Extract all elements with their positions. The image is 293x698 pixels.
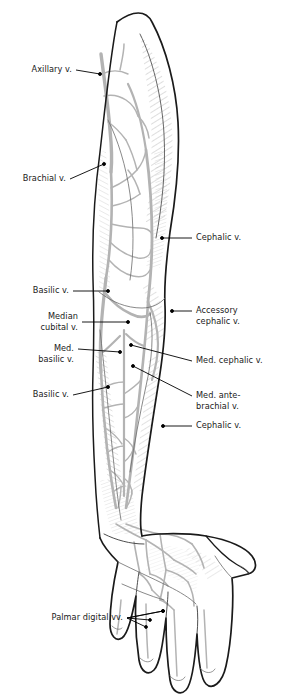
leader-tip-median-cephalic-vein [130,344,133,347]
label-accessory-cephalic-vein: Accessory cephalic v. [196,305,240,326]
leader-tip-accessory-cephalic-vein [171,310,174,313]
label-median-antebrachial-vein: Med. ante- brachial v. [196,390,240,411]
label-cephalic-vein-upper: Cephalic v. [196,232,241,243]
leader-tip-brachial-vein [103,163,106,166]
leader-axillary-vein [76,70,100,74]
leader-tip-palmar-digital-branch-2 [149,619,152,622]
label-axillary-vein: Axillary v. [32,64,72,75]
label-basilic-vein-upper: Basilic v. [33,285,69,296]
label-median-cephalic-vein: Med. cephalic v. [196,355,263,366]
label-basilic-vein-lower: Basilic v. [33,389,69,400]
leader-tip-median-basilic-vein [119,351,122,354]
leader-tip-basilic-vein-lower [107,386,110,389]
label-median-basilic-vein: Med. basilic v. [38,343,74,364]
label-cephalic-vein-lower: Cephalic v. [196,420,241,431]
anatomical-figure: Axillary v.Brachial v.Cephalic v.Basilic… [0,0,293,698]
leader-tip-cephalic-vein-upper [161,237,164,240]
leader-tip-palmar-digital-branch-1 [162,610,165,613]
label-median-cubital-vein: Median cubital v. [40,311,78,332]
leader-tip-median-antebrachial-vein [132,365,135,368]
leader-tip-palmar-digital-branch-3 [145,626,148,629]
leader-tip-cephalic-vein-lower [162,425,165,428]
leader-tip-median-cubital-vein [127,321,130,324]
limb-body [93,13,256,693]
leader-tip-basilic-vein-upper [107,290,110,293]
leader-tip-axillary-vein [99,73,102,76]
label-palmar-digital-veins: Palmar digital vv. [52,612,123,623]
label-brachial-vein: Brachial v. [23,173,66,184]
